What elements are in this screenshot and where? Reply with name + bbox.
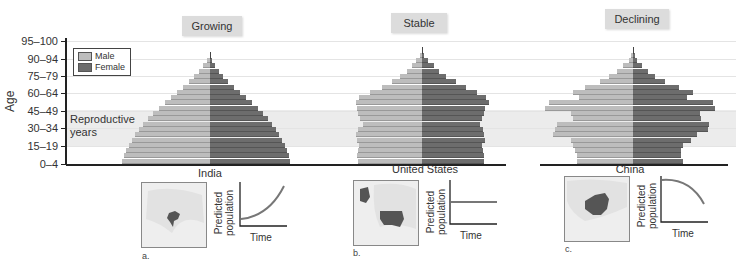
female-bar: [633, 63, 642, 68]
country-label-china: China: [600, 163, 660, 175]
female-bar: [210, 132, 279, 137]
male-bar: [183, 85, 210, 90]
ylabel-line2: population: [436, 182, 447, 242]
female-bar: [422, 127, 483, 132]
ylabel-line1: Predicted: [213, 183, 224, 243]
male-bar: [359, 95, 422, 100]
female-bar: [633, 95, 687, 100]
male-bar: [545, 106, 633, 111]
growth-curve-flat: [449, 180, 499, 226]
map-united-states: [353, 180, 419, 246]
panel-letter-b: b.: [353, 248, 361, 258]
female-bar: [210, 111, 263, 116]
legend-swatch-male: [78, 52, 92, 61]
male-bar: [358, 127, 422, 132]
title-growing: Growing: [182, 16, 242, 36]
female-bar: [422, 69, 439, 74]
male-bar: [575, 148, 633, 153]
female-bar: [633, 148, 681, 153]
male-bar: [199, 69, 210, 74]
panel-letter-c: c.: [565, 244, 572, 254]
map-india: [141, 182, 207, 248]
y-tick-label: 75–79: [0, 70, 58, 82]
male-bar: [600, 79, 633, 84]
male-bar: [553, 132, 633, 137]
male-bar: [555, 127, 633, 132]
annotation-line-2: years: [70, 126, 135, 139]
female-bar: [633, 90, 693, 95]
female-bar: [633, 127, 708, 132]
country-label-india: India: [180, 167, 240, 179]
male-bar: [132, 138, 210, 143]
male-bar: [557, 122, 633, 127]
female-bar: [633, 74, 655, 79]
pyramid-apex: [210, 52, 212, 59]
female-bar: [422, 143, 482, 148]
y-tick-label: 60–64: [0, 87, 58, 99]
y-tick-label: 30–34: [0, 122, 58, 134]
female-bar: [210, 90, 240, 95]
female-bar: [422, 138, 485, 143]
ylabel-line1: Predicted: [636, 176, 647, 236]
male-bar: [363, 122, 422, 127]
male-bar: [392, 79, 422, 84]
male-bar: [203, 63, 210, 68]
male-bar: [623, 63, 633, 68]
male-bar: [126, 148, 210, 153]
male-bar: [549, 100, 633, 105]
female-bar: [422, 111, 484, 116]
map-china: [564, 176, 630, 242]
male-bar: [357, 106, 422, 111]
title-stable: Stable: [391, 13, 447, 33]
male-bar: [153, 111, 210, 116]
predicted-population-label-a: Predicted population: [213, 183, 235, 243]
female-bar: [422, 106, 485, 111]
male-bar: [124, 153, 210, 158]
growth-curve-exponential: [239, 182, 289, 228]
male-bar: [370, 90, 422, 95]
female-bar: [633, 85, 679, 90]
male-bar: [573, 90, 633, 95]
female-bar: [633, 79, 665, 84]
y-tick-label: 95–100: [0, 35, 58, 47]
female-bar: [422, 85, 466, 90]
female-bar: [633, 100, 713, 105]
male-bar: [571, 111, 633, 116]
growth-curve-declining: [660, 176, 710, 224]
female-bar: [422, 116, 482, 121]
female-bar: [422, 74, 446, 79]
panel-letter-a: a.: [142, 251, 150, 261]
female-bar: [210, 159, 290, 164]
male-bar: [360, 116, 422, 121]
female-bar: [210, 122, 272, 127]
male-bar: [171, 95, 210, 100]
male-bar: [358, 111, 422, 116]
female-bar: [210, 143, 285, 148]
ylabel-line2: population: [224, 183, 235, 243]
male-bar: [356, 132, 422, 137]
pyramid-apex: [422, 47, 424, 54]
female-bar: [633, 116, 701, 121]
female-bar: [633, 138, 691, 143]
male-bar: [139, 127, 210, 132]
female-bar: [210, 153, 289, 158]
female-bar: [422, 122, 480, 127]
female-bar: [422, 79, 456, 84]
female-bar: [422, 58, 428, 63]
female-bar: [422, 95, 486, 100]
y-tick-label: 90–94: [0, 53, 58, 65]
female-bar: [210, 138, 282, 143]
y-axis-line: [65, 38, 67, 165]
male-bar: [356, 100, 422, 105]
male-bar: [358, 148, 422, 153]
y-tick-label: 15–19: [0, 140, 58, 152]
male-bar: [159, 106, 210, 111]
female-bar: [210, 69, 219, 74]
reproductive-years-label: Reproductive years: [70, 113, 135, 139]
y-tick-label: 0–4: [0, 158, 58, 170]
y-tick-label: 45–49: [0, 105, 58, 117]
male-bar: [617, 69, 633, 74]
male-bar: [577, 153, 633, 158]
female-bar: [633, 132, 697, 137]
female-bar: [210, 148, 287, 153]
